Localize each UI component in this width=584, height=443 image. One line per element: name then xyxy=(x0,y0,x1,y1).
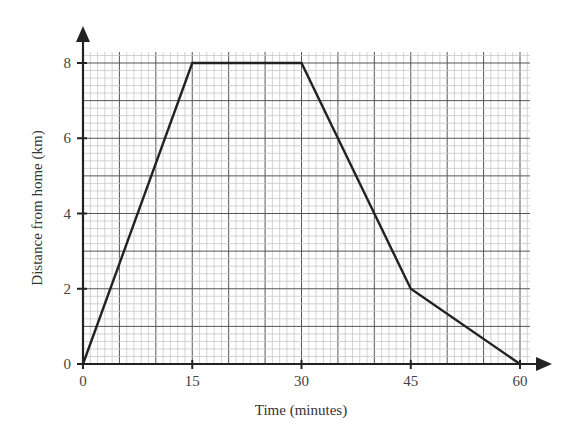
distance-time-graph: 01530456002468 Time (minutes) Distance f… xyxy=(0,0,584,443)
x-tick-label: 0 xyxy=(79,373,87,389)
y-tick-label: 6 xyxy=(64,130,72,146)
x-axis-title: Time (minutes) xyxy=(255,402,347,419)
x-tick-label: 45 xyxy=(403,373,418,389)
grid xyxy=(83,52,530,364)
x-tick-label: 30 xyxy=(294,373,309,389)
x-tick-label: 60 xyxy=(513,373,528,389)
ticks xyxy=(77,63,520,369)
y-tick-label: 0 xyxy=(64,356,72,372)
x-tick-label: 15 xyxy=(185,373,200,389)
y-tick-label: 8 xyxy=(64,55,72,71)
tick-labels: 01530456002468 xyxy=(64,55,528,389)
y-axis-title: Distance from home (km) xyxy=(29,130,46,285)
y-tick-label: 4 xyxy=(64,206,72,222)
y-tick-label: 2 xyxy=(64,281,72,297)
